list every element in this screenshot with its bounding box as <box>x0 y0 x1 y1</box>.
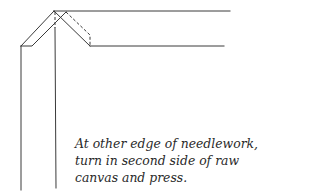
inner-vertical-line <box>55 28 56 188</box>
figure-caption: At other edge of needlework, turn in sec… <box>75 136 300 186</box>
fold-diagonal-line <box>54 11 90 46</box>
caption-line-1: At other edge of needlework, <box>75 136 300 153</box>
caption-line-2: turn in second side of raw <box>75 153 300 170</box>
caption-line-3: canvas and press. <box>75 170 300 187</box>
dashed-fold-line <box>66 12 90 46</box>
folded-flap-line <box>21 12 66 46</box>
